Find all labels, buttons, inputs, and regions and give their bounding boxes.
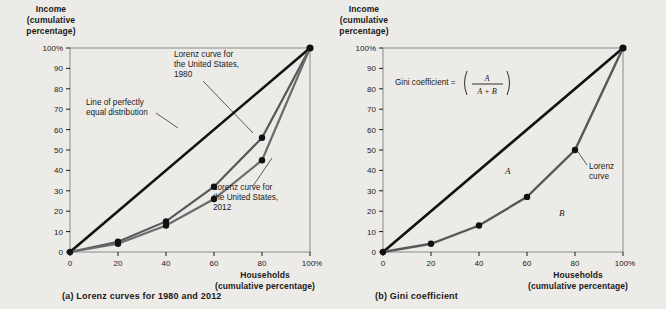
y-tick-30: 30 (367, 187, 376, 196)
y-tick-10: 10 (54, 228, 63, 237)
svg-text:Lorenz curve for: Lorenz curve for (213, 183, 272, 192)
svg-text:Line of perfectly: Line of perfectly (86, 98, 145, 107)
x-tick-80: 80 (571, 259, 580, 268)
y-tick-20: 20 (367, 207, 376, 216)
y-axis-ticks (379, 48, 383, 252)
gini-denominator: A + B (476, 87, 496, 96)
x-axis-title-line1: Households (513, 270, 643, 281)
panel-a-x-axis-title: Households (cumulative percentage) (200, 270, 330, 292)
panel-lorenz-curves: Income (cumulative percentage) 0 10 20 3… (0, 0, 333, 309)
x-tick-0: 0 (68, 259, 73, 268)
panel-a-caption: (a) Lorenz curves for 1980 and 2012 (62, 291, 222, 301)
y-tick-80: 80 (367, 85, 376, 94)
svg-text:curve: curve (589, 172, 609, 181)
y-tick-40: 40 (54, 166, 63, 175)
svg-text:the United States,: the United States, (174, 60, 239, 69)
gini-formula-label: Gini coefficient = (395, 78, 456, 87)
y-tick-50: 50 (54, 146, 63, 155)
panel-b-x-axis-title: Households (cumulative percentage) (513, 270, 643, 292)
area-label-a: A (504, 166, 511, 176)
x-axis-ticks (383, 252, 623, 256)
x-axis-ticks (70, 252, 310, 256)
x-tick-60: 60 (210, 259, 219, 268)
panel-b-caption: (b) Gini coefficient (375, 291, 458, 301)
panel-b-plot: 0 10 20 30 40 50 60 70 80 90 100% 0 20 4… (333, 0, 666, 309)
y-tick-80: 80 (54, 85, 63, 94)
y-tick-60: 60 (367, 126, 376, 135)
x-axis-title-line2: (cumulative percentage) (513, 281, 643, 292)
x-tick-20: 20 (114, 259, 123, 268)
svg-text:2012: 2012 (213, 203, 232, 212)
y-tick-90: 90 (54, 64, 63, 73)
svg-text:1980: 1980 (174, 70, 193, 79)
y-tick-20: 20 (54, 207, 63, 216)
svg-text:the United States,: the United States, (213, 193, 278, 202)
y-tick-70: 70 (54, 105, 63, 114)
y-tick-100: 100% (43, 44, 63, 53)
y-tick-30: 30 (54, 187, 63, 196)
y-tick-0: 0 (59, 248, 64, 257)
x-tick-40: 40 (162, 259, 171, 268)
y-tick-90: 90 (367, 64, 376, 73)
y-axis-ticks (66, 48, 70, 252)
svg-text:Lorenz: Lorenz (589, 162, 614, 171)
y-tick-40: 40 (367, 166, 376, 175)
y-tick-100: 100% (356, 44, 376, 53)
y-tick-70: 70 (367, 105, 376, 114)
y-tick-60: 60 (54, 126, 63, 135)
panel-gini-coefficient: Income (cumulative percentage) 0 10 20 3… (333, 0, 666, 309)
x-axis-title-line1: Households (200, 270, 330, 281)
gini-numerator: A (483, 74, 490, 83)
x-tick-100: 100% (615, 259, 635, 268)
svg-text:Lorenz curve for: Lorenz curve for (174, 50, 233, 59)
x-tick-40: 40 (475, 259, 484, 268)
area-label-b: B (559, 208, 565, 218)
x-tick-60: 60 (523, 259, 532, 268)
y-tick-10: 10 (367, 228, 376, 237)
x-tick-0: 0 (381, 259, 386, 268)
x-tick-100: 100% (302, 259, 322, 268)
y-tick-50: 50 (367, 146, 376, 155)
x-tick-80: 80 (258, 259, 267, 268)
panel-a-plot: 0 10 20 30 40 50 60 70 80 90 100% 0 20 4… (0, 0, 333, 309)
x-tick-20: 20 (427, 259, 436, 268)
y-tick-0: 0 (372, 248, 377, 257)
svg-text:equal distribution: equal distribution (86, 108, 148, 117)
